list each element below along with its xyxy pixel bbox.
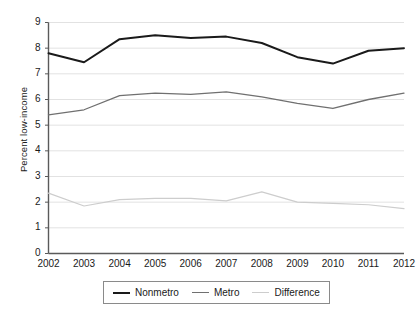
x-tick-label: 2006 xyxy=(174,258,208,269)
plot-area xyxy=(0,0,420,318)
y-tick-label: 7 xyxy=(27,67,41,78)
x-tick-label: 2004 xyxy=(103,258,137,269)
y-tick-label: 2 xyxy=(27,196,41,207)
series-line-metro xyxy=(49,92,405,115)
x-tick-label: 2005 xyxy=(138,258,172,269)
legend-item-nonmetro[interactable]: Nonmetro xyxy=(113,287,179,298)
y-tick-label: 1 xyxy=(27,221,41,232)
legend-line-icon xyxy=(192,292,209,293)
legend-item-label: Nonmetro xyxy=(135,287,179,298)
x-tick-label: 2012 xyxy=(387,258,420,269)
y-tick-label: 3 xyxy=(27,170,41,181)
y-tick-label: 0 xyxy=(27,247,41,258)
series-lines xyxy=(49,35,405,208)
x-tick-label: 2002 xyxy=(32,258,66,269)
y-tick-label: 6 xyxy=(27,93,41,104)
line-chart: Percent low-income 0123456789 2002200320… xyxy=(0,0,420,318)
legend-item-label: Difference xyxy=(274,287,319,298)
series-line-nonmetro xyxy=(49,35,405,63)
y-tick-label: 8 xyxy=(27,42,41,53)
y-tick-label: 5 xyxy=(27,119,41,130)
x-tick-label: 2008 xyxy=(245,258,279,269)
legend-line-icon xyxy=(252,292,269,293)
x-tick-label: 2011 xyxy=(351,258,385,269)
x-tick-label: 2003 xyxy=(67,258,101,269)
legend-item-label: Metro xyxy=(214,287,240,298)
axis-lines xyxy=(45,23,49,254)
series-line-difference xyxy=(49,192,405,209)
y-tick-label: 4 xyxy=(27,144,41,155)
y-tick-label: 9 xyxy=(27,16,41,27)
x-tick-label: 2009 xyxy=(280,258,314,269)
chart-legend: NonmetroMetroDifference xyxy=(103,281,330,304)
x-tick-label: 2010 xyxy=(316,258,350,269)
x-tick-label: 2007 xyxy=(209,258,243,269)
legend-item-difference[interactable]: Difference xyxy=(252,287,319,298)
legend-item-metro[interactable]: Metro xyxy=(192,287,240,298)
legend-line-icon xyxy=(113,292,130,294)
